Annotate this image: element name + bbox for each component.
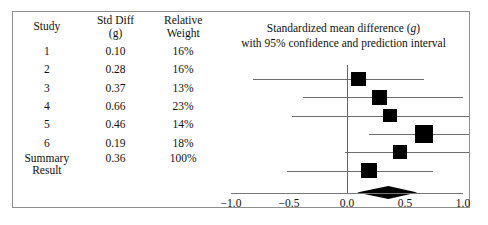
weight-cell: 14%	[149, 115, 217, 133]
column-header-study-line1: Study	[12, 20, 82, 32]
study-cell: 2	[12, 60, 82, 78]
study-effect-marker	[361, 163, 377, 179]
study-effect-marker	[383, 109, 396, 122]
column-header-weight-line2: Weight	[149, 27, 217, 39]
x-tick-label: 0.0	[340, 197, 354, 209]
study-cell: 4	[12, 97, 82, 115]
table-row: 40.6623%	[12, 97, 217, 115]
effect-cell: 0.28	[82, 60, 150, 78]
confidence-interval-line	[292, 116, 469, 117]
x-tick-label: −1.0	[221, 197, 242, 209]
table-row: 10.1016%	[12, 42, 217, 60]
weight-cell: 23%	[149, 97, 217, 115]
summary-row: SummaryResult0.36100%	[12, 152, 217, 176]
forest-plot-panel: Standardized mean difference (g) with 95…	[217, 11, 470, 208]
effect-cell: 0.37	[82, 79, 150, 97]
column-header-weight-line1: Relative	[149, 14, 217, 26]
forest-plot-figure: Study Std Diff (g) Relative Weight 10.10…	[0, 0, 488, 225]
weight-cell: 16%	[149, 42, 217, 60]
column-header-study: Study	[12, 11, 82, 42]
study-effect-marker	[393, 145, 407, 159]
study-effect-marker	[351, 72, 366, 87]
study-effect-marker	[415, 125, 433, 143]
study-cell: 6	[12, 133, 82, 151]
summary-label-line2: Result	[12, 164, 82, 176]
x-tick-label: 0.5	[398, 197, 412, 209]
effect-cell: 0.19	[82, 133, 150, 151]
effect-cell: 0.46	[82, 115, 150, 133]
plot-drawing-area: −1.0−0.50.00.51.0	[217, 11, 470, 208]
table-row: 50.4614%	[12, 115, 217, 133]
effect-cell: 0.66	[82, 97, 150, 115]
weight-cell: 16%	[149, 60, 217, 78]
results-table-body: 10.1016%20.2816%30.3713%40.6623%50.4614%…	[12, 42, 217, 176]
x-tick-label: −0.5	[279, 197, 300, 209]
confidence-interval-line	[253, 79, 424, 80]
table-row: 60.1918%	[12, 133, 217, 151]
x-axis-line	[231, 193, 463, 194]
column-header-weight: Relative Weight	[149, 11, 217, 42]
summary-label-line1: Summary	[24, 152, 69, 164]
study-cell: 5	[12, 115, 82, 133]
confidence-interval-line	[287, 171, 433, 172]
summary-effect-cell: 0.36	[82, 152, 150, 176]
table-header-row: Study Std Diff (g) Relative Weight	[12, 11, 217, 42]
x-tick-label: 1.0	[456, 197, 470, 209]
summary-label-cell: SummaryResult	[12, 152, 82, 176]
weight-cell: 13%	[149, 79, 217, 97]
study-effect-marker	[372, 90, 387, 105]
study-cell: 1	[12, 42, 82, 60]
column-header-effect: Std Diff (g)	[82, 11, 150, 42]
weight-cell: 18%	[149, 133, 217, 151]
column-header-effect-line1: Std Diff	[82, 14, 150, 26]
column-header-effect-line2: (g)	[82, 27, 150, 39]
null-effect-line	[347, 65, 348, 193]
table-row: 30.3713%	[12, 79, 217, 97]
results-table: Study Std Diff (g) Relative Weight 10.10…	[12, 11, 217, 176]
summary-weight-cell: 100%	[149, 152, 217, 176]
table-row: 20.2816%	[12, 60, 217, 78]
results-table-panel: Study Std Diff (g) Relative Weight 10.10…	[12, 11, 217, 208]
study-cell: 3	[12, 79, 82, 97]
effect-cell: 0.10	[82, 42, 150, 60]
